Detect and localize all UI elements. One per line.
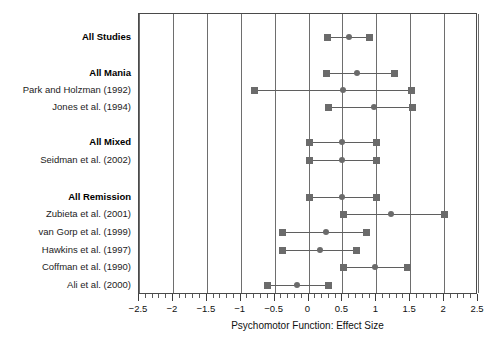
major-tick	[341, 294, 342, 301]
major-tick	[308, 294, 309, 301]
ci-upper-cap	[363, 229, 370, 236]
study-label: Hawkins et al. (1997)	[0, 244, 131, 255]
ci-upper-cap	[409, 104, 416, 111]
confidence-interval-line	[327, 73, 395, 74]
ci-upper-cap	[366, 34, 373, 41]
forest-plot: All StudiesAll ManiaPark and Holzman (19…	[0, 0, 495, 353]
minor-tick	[253, 294, 254, 298]
minor-tick	[260, 294, 261, 298]
x-tick-label: −0.5	[264, 303, 283, 315]
minor-tick	[457, 294, 458, 298]
study-label: Zubieta et al. (2001)	[0, 208, 131, 219]
minor-tick	[246, 294, 247, 298]
ci-upper-cap	[408, 87, 415, 94]
ci-upper-cap	[325, 282, 332, 289]
group-label: All Remission	[0, 191, 131, 202]
gridline	[410, 14, 411, 293]
study-label: Jones et al. (1994)	[0, 101, 131, 112]
x-tick-label: 2	[440, 303, 445, 315]
study-label-column: All StudiesAll ManiaPark and Holzman (19…	[0, 13, 131, 295]
x-tick-label: 0.5	[335, 303, 348, 315]
minor-tick	[192, 294, 193, 298]
major-tick	[409, 294, 410, 301]
gridline	[309, 14, 310, 293]
minor-tick	[165, 294, 166, 298]
minor-tick	[423, 294, 424, 298]
minor-tick	[185, 294, 186, 298]
ci-lower-cap	[279, 229, 286, 236]
effect-size-point	[354, 70, 360, 76]
gridline	[275, 14, 276, 293]
x-axis-title: Psychomotor Function: Effect Size	[138, 320, 477, 331]
minor-tick	[301, 294, 302, 298]
effect-size-point	[346, 34, 352, 40]
minor-tick	[145, 294, 146, 298]
effect-size-point	[339, 157, 345, 163]
major-tick	[206, 294, 207, 301]
group-label: All Mixed	[0, 136, 131, 147]
minor-tick	[389, 294, 390, 298]
ci-lower-cap	[325, 104, 332, 111]
ci-lower-cap	[279, 247, 286, 254]
gridline	[207, 14, 208, 293]
gridline	[139, 14, 140, 293]
minor-tick	[470, 294, 471, 298]
study-label: van Gorp et al. (1999)	[0, 226, 131, 237]
minor-tick	[463, 294, 464, 298]
effect-size-point	[317, 247, 323, 253]
ci-lower-cap	[323, 70, 330, 77]
gridline	[241, 14, 242, 293]
minor-tick	[369, 294, 370, 298]
x-axis-tick-labels: −2.5−2−1.5−1−0.500.511.522.5	[138, 303, 477, 317]
major-tick	[477, 294, 478, 301]
effect-size-point	[339, 194, 345, 200]
ci-upper-cap	[441, 211, 448, 218]
major-tick	[172, 294, 173, 301]
ci-upper-cap	[373, 194, 380, 201]
effect-size-point	[339, 139, 345, 145]
minor-tick	[402, 294, 403, 298]
minor-tick	[314, 294, 315, 298]
major-tick	[240, 294, 241, 301]
x-tick-label: −2.5	[129, 303, 148, 315]
minor-tick	[219, 294, 220, 298]
x-tick-label: −1.5	[196, 303, 215, 315]
ci-lower-cap	[306, 139, 313, 146]
gridline	[173, 14, 174, 293]
minor-tick	[267, 294, 268, 298]
minor-tick	[280, 294, 281, 298]
major-tick	[443, 294, 444, 301]
plot-frame	[138, 13, 477, 294]
study-label: Coffman et al. (1990)	[0, 261, 131, 272]
minor-tick	[287, 294, 288, 298]
minor-tick	[233, 294, 234, 298]
study-label: Park and Holzman (1992)	[0, 84, 131, 95]
minor-tick	[436, 294, 437, 298]
x-tick-label: 0	[305, 303, 310, 315]
minor-tick	[199, 294, 200, 298]
minor-tick	[179, 294, 180, 298]
gridline	[478, 14, 479, 293]
ci-lower-cap	[306, 194, 313, 201]
minor-tick	[294, 294, 295, 298]
effect-size-point	[340, 87, 346, 93]
ci-upper-cap	[373, 157, 380, 164]
ci-upper-cap	[353, 247, 360, 254]
minor-tick	[152, 294, 153, 298]
ci-lower-cap	[324, 34, 331, 41]
minor-tick	[213, 294, 214, 298]
x-tick-label: −1	[234, 303, 245, 315]
ci-upper-cap	[373, 139, 380, 146]
x-tick-label: −2	[166, 303, 177, 315]
major-tick	[375, 294, 376, 301]
minor-tick	[416, 294, 417, 298]
ci-lower-cap	[306, 157, 313, 164]
minor-tick	[226, 294, 227, 298]
gridline	[444, 14, 445, 293]
effect-size-point	[294, 282, 300, 288]
study-label: Ali et al. (2000)	[0, 279, 131, 290]
minor-tick	[328, 294, 329, 298]
confidence-interval-line	[255, 90, 412, 91]
effect-size-point	[323, 229, 329, 235]
minor-tick	[430, 294, 431, 298]
